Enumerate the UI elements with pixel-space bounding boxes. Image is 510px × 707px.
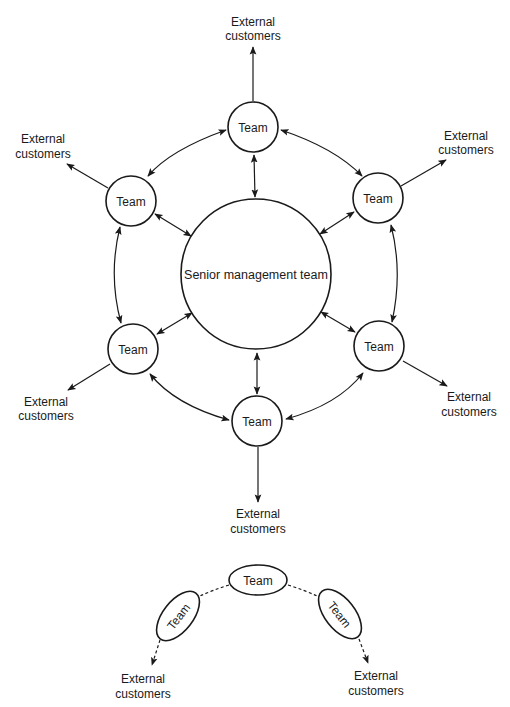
arc-top-upperright — [281, 130, 362, 176]
arc-upperleft-lowerleft — [114, 227, 121, 323]
team-network-diagram: Senior management team Team Team Team Te… — [0, 0, 510, 707]
svg-text:External: External — [444, 129, 488, 143]
arc-lowerleft-bottom — [150, 374, 229, 420]
arc-upperright-lowerright — [391, 225, 397, 322]
team-label: Team — [238, 121, 267, 135]
svg-text:External: External — [236, 507, 280, 521]
external-label-upper-left: External customers — [15, 132, 70, 161]
external-label-upper-right: External customers — [438, 129, 493, 157]
svg-text:customers: customers — [438, 143, 493, 157]
svg-text:customers: customers — [230, 522, 285, 536]
svg-text:External: External — [21, 132, 65, 146]
dashed-arrow-left-external — [152, 640, 160, 665]
team-node-bottom: Team — [232, 396, 282, 446]
team-node-lower-left: Team — [108, 324, 158, 374]
spoke-upperright — [320, 212, 354, 234]
external-label-top: External customers — [225, 15, 280, 43]
arc-lowerright-bottom — [286, 373, 363, 419]
team-node-lower-right: Team — [354, 321, 404, 371]
svg-text:External: External — [24, 395, 68, 409]
arrow-lowerright-external — [403, 361, 447, 386]
inset-team-node-right: Team — [310, 582, 369, 646]
spoke-lowerright — [321, 312, 355, 332]
svg-text:External: External — [121, 672, 165, 686]
external-label-lower-right: External customers — [441, 390, 496, 419]
team-label: Team — [243, 574, 272, 588]
svg-text:External: External — [447, 390, 491, 404]
team-label: Team — [364, 340, 393, 354]
svg-text:customers: customers — [441, 405, 496, 419]
team-node-upper-right: Team — [353, 173, 403, 223]
inset-diagram: Team Team Team External customers Extern… — [115, 565, 403, 701]
svg-text:customers: customers — [348, 684, 403, 698]
team-label: Team — [116, 195, 145, 209]
svg-text:customers: customers — [18, 409, 73, 423]
inset-external-label-left: External customers — [115, 672, 170, 701]
spoke-top — [254, 155, 255, 197]
svg-text:customers: customers — [15, 147, 70, 161]
svg-text:External: External — [231, 15, 275, 29]
dashed-link-top-right — [288, 585, 317, 596]
arc-top-upperleft — [148, 130, 226, 176]
team-node-top: Team — [228, 102, 278, 152]
inset-team-node-left: Team — [148, 584, 207, 648]
senior-management-label: Senior management team — [184, 268, 328, 282]
svg-text:customers: customers — [115, 687, 170, 701]
arrow-upperleft-external — [67, 164, 108, 188]
spoke-upperleft — [155, 214, 191, 236]
inset-external-label-right: External customers — [348, 669, 403, 698]
dashed-link-left-top — [200, 585, 229, 596]
svg-text:customers: customers — [225, 29, 280, 43]
team-label: Team — [118, 343, 147, 357]
external-label-lower-left: External customers — [18, 395, 73, 423]
team-node-upper-left: Team — [106, 176, 156, 226]
senior-management-node: Senior management team — [181, 199, 331, 349]
inset-team-node-top: Team — [229, 565, 287, 595]
arrow-lowerleft-external — [68, 364, 110, 390]
arrow-upperright-external — [401, 160, 446, 186]
svg-text:External: External — [354, 669, 398, 683]
team-label: Team — [363, 192, 392, 206]
dashed-arrow-right-external — [359, 639, 368, 663]
team-label: Team — [242, 415, 271, 429]
external-label-bottom: External customers — [230, 507, 285, 536]
spoke-lowerleft — [157, 313, 192, 334]
